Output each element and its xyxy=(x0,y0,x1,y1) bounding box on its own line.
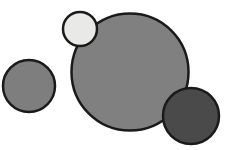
circle-top-small-light: small light circle top xyxy=(63,12,97,46)
circle-left-medium: left medium gray circle xyxy=(3,60,55,112)
circle-bottom-right-dark: dark circle bottom right xyxy=(163,88,219,144)
circles-figure: left medium gray circlelarge center gray… xyxy=(0,0,230,150)
figure-canvas: left medium gray circlelarge center gray… xyxy=(0,0,230,150)
